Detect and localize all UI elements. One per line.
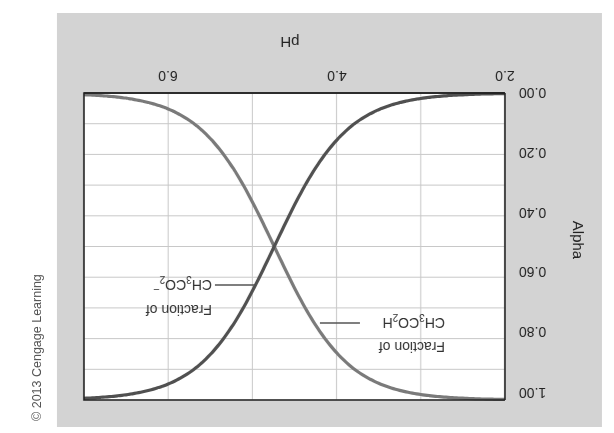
y-tick-label: 0.80	[519, 324, 546, 340]
y-tick-labels: 0.00 0.20 0.40 0.60 0.80 1.00	[519, 85, 546, 401]
y-tick-label: 0.60	[519, 264, 546, 280]
chart: 0.00 0.20 0.40 0.60 0.80 1.00 2.0 4.0 6.…	[0, 0, 614, 433]
y-tick-label: 0.20	[519, 145, 546, 161]
y-tick-label: 0.00	[519, 85, 546, 101]
x-tick-label: 4.0	[327, 68, 347, 84]
annotation-formula: CH3CO2H	[383, 312, 445, 331]
y-axis-title: Alpha	[570, 221, 587, 260]
x-axis-title: pH	[280, 34, 299, 51]
rotated-figure: 0.00 0.20 0.40 0.60 0.80 1.00 2.0 4.0 6.…	[0, 0, 614, 433]
y-tick-label: 1.00	[519, 385, 546, 401]
y-tick-label: 0.40	[519, 205, 546, 221]
x-tick-label: 6.0	[158, 68, 178, 84]
x-tick-label: 2.0	[495, 68, 515, 84]
annotation-line1: Fraction of	[379, 339, 445, 355]
annotation-line1: Fraction of	[146, 302, 212, 318]
x-tick-labels: 2.0 4.0 6.0	[158, 68, 515, 84]
copyright-credit: © 2013 Cengage Learning	[30, 274, 44, 421]
